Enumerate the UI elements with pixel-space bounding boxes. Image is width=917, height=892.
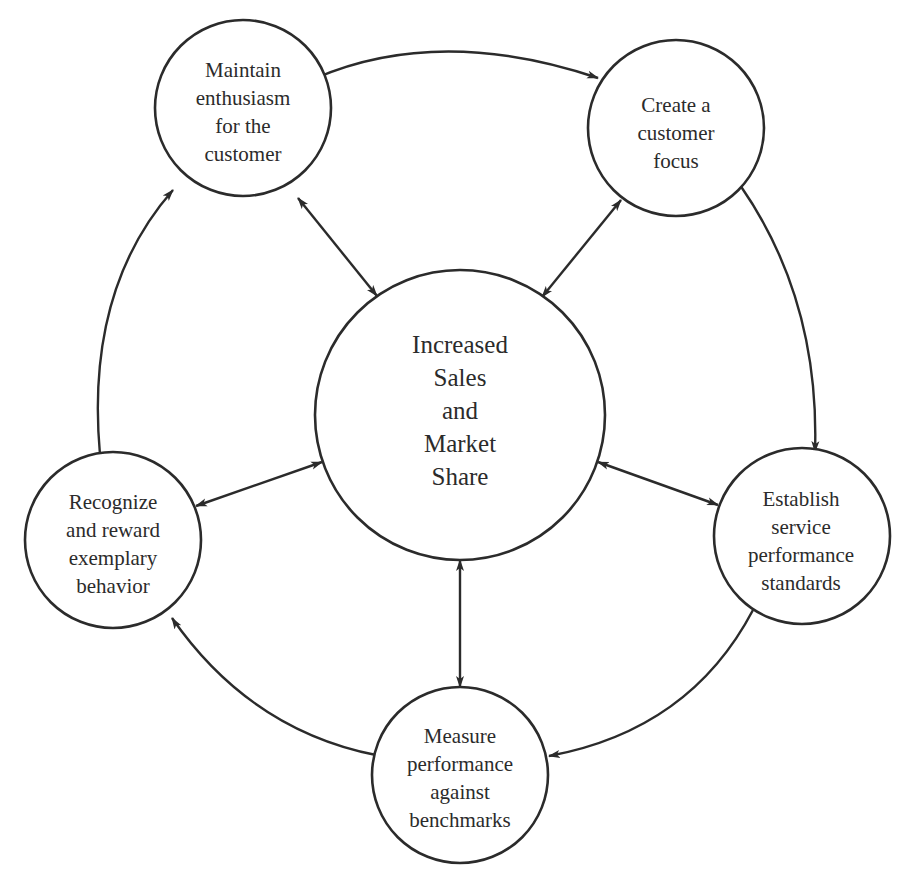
cycle-arrow-measure-to-recognize xyxy=(172,618,376,755)
establish-label-line: standards xyxy=(748,569,854,597)
establish-label-line: performance xyxy=(748,541,854,569)
recognize-label-line: Recognize xyxy=(66,488,160,516)
recognize-label: Recognize and reward exemplary behavior xyxy=(66,488,160,600)
create-label-line: focus xyxy=(638,147,715,175)
hub-arrow-center-create xyxy=(542,200,621,297)
hub-arrow-center-establish xyxy=(598,462,718,505)
create-label-line: Create a xyxy=(638,91,715,119)
maintain-label-line: customer xyxy=(196,140,291,168)
cycle-arrow-maintain-to-create xyxy=(316,52,598,79)
cycle-arrow-create-to-establish xyxy=(740,185,815,452)
measure-label-line: against xyxy=(407,778,513,806)
maintain-label: Maintain enthusiasm for the customer xyxy=(196,56,291,168)
hub-arrow-center-recognize xyxy=(196,462,322,506)
recognize-label-line: exemplary xyxy=(66,544,160,572)
establish-label-line: service xyxy=(748,513,854,541)
cycle-arrow-establish-to-measure xyxy=(549,610,753,756)
center-label-line: Sales xyxy=(412,361,508,394)
center-label-line: and xyxy=(412,394,508,427)
maintain-label-line: Maintain xyxy=(196,56,291,84)
create-label-line: customer xyxy=(638,119,715,147)
establish-label: Establish service performance standards xyxy=(748,485,854,597)
center-label-line: Increased xyxy=(412,328,508,361)
establish-label-line: Establish xyxy=(748,485,854,513)
measure-label-line: benchmarks xyxy=(407,806,513,834)
maintain-label-line: for the xyxy=(196,112,291,140)
center-label-line: Market xyxy=(412,427,508,460)
measure-label-line: performance xyxy=(407,750,513,778)
center-label: Increased Sales and Market Share xyxy=(412,328,508,493)
cycle-arrow-recognize-to-maintain xyxy=(98,190,173,455)
create-label: Create a customer focus xyxy=(638,91,715,175)
recognize-label-line: and reward xyxy=(66,516,160,544)
measure-label-line: Measure xyxy=(407,722,513,750)
recognize-label-line: behavior xyxy=(66,572,160,600)
center-label-line: Share xyxy=(412,460,508,493)
hub-arrow-center-maintain xyxy=(298,198,377,296)
measure-label: Measure performance against benchmarks xyxy=(407,722,513,834)
maintain-label-line: enthusiasm xyxy=(196,84,291,112)
